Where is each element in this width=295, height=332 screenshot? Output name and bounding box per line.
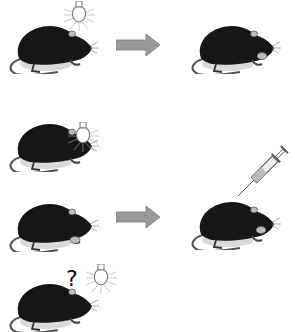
rat-icon (186, 14, 286, 74)
food-icon (257, 52, 269, 61)
arrow-icon (116, 34, 162, 58)
row1-rat-eating (186, 14, 286, 74)
lightbulb-icon (64, 1, 96, 33)
rat-icon (4, 192, 104, 252)
row3-rat-with-food (4, 192, 104, 252)
food-icon (70, 236, 82, 245)
question-mark: ? (66, 268, 78, 290)
lightbulb-icon (68, 122, 100, 154)
lightbulb-icon (86, 264, 118, 296)
syringe-icon (234, 144, 294, 200)
food-icon (256, 226, 268, 235)
arrow-icon (116, 206, 162, 230)
